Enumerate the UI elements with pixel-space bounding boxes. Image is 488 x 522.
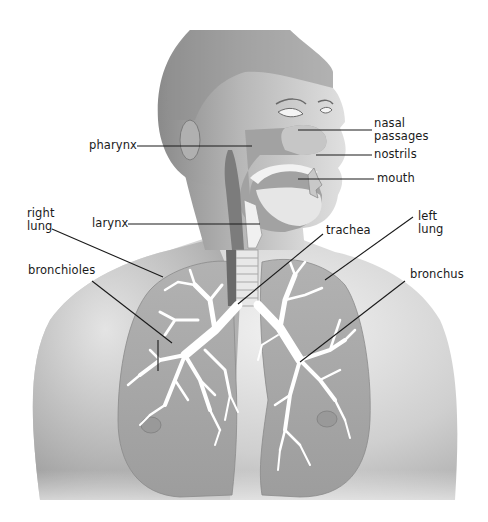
label-bronchus: bronchus	[410, 268, 464, 281]
label-mouth: mouth	[377, 172, 415, 185]
anatomy-illustration	[0, 0, 488, 522]
label-right-lung: right lung	[27, 207, 55, 233]
label-nasal-passages: nasal passages	[374, 117, 429, 143]
label-left-lung: left lung	[418, 210, 443, 236]
label-trachea: trachea	[326, 224, 371, 237]
label-bronchioles: bronchioles	[28, 264, 95, 277]
ear	[180, 120, 200, 160]
label-nostrils: nostrils	[374, 148, 417, 161]
respiratory-diagram: pharynx nasal passages nostrils mouth ri…	[0, 0, 488, 522]
label-pharynx: pharynx	[89, 139, 137, 152]
label-larynx: larynx	[92, 217, 128, 230]
